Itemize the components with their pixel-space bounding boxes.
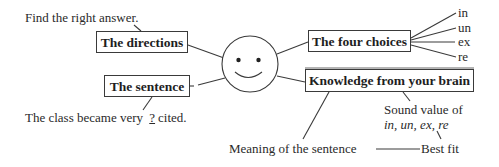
box-sentence: The sentence xyxy=(104,75,190,97)
box-directions: The directions xyxy=(96,31,188,53)
reading-strategy-diagram: Find the right answer. The directions Th… xyxy=(0,0,499,167)
connector-knowledge-meaning xyxy=(303,92,329,139)
sound-value-label: Sound value of xyxy=(384,103,463,116)
connector-sentence-face xyxy=(198,78,225,85)
example-sentence: The class became very ?cited. xyxy=(25,111,187,124)
choice-un: un xyxy=(458,21,471,34)
connector-sentence-example xyxy=(143,97,152,110)
connector-choice-re xyxy=(411,45,456,57)
connector-face-knowledge xyxy=(277,76,305,82)
choice-ex: ex xyxy=(458,35,470,48)
example-sentence-blank: ? xyxy=(146,110,158,125)
example-sentence-before: The class became very xyxy=(25,110,146,125)
connector-knowledge-sound xyxy=(403,92,410,101)
box-four-choices: The four choices xyxy=(308,30,411,52)
example-sentence-after: cited. xyxy=(158,110,187,125)
best-fit: Best fit xyxy=(421,142,459,155)
sound-value-items: in, un, ex, re xyxy=(384,118,449,131)
choice-in: in xyxy=(458,6,468,19)
box-knowledge: Knowledge from your brain xyxy=(305,69,474,92)
smiley-face-icon xyxy=(222,36,278,92)
connector-face-choices xyxy=(277,42,308,54)
choice-re: re xyxy=(458,50,468,63)
connector-directions-face xyxy=(188,45,224,58)
meaning-of-sentence: Meaning of the sentence xyxy=(229,142,356,155)
connector-sound-bestfit xyxy=(437,131,441,139)
instruction-text: Find the right answer. xyxy=(25,11,138,24)
